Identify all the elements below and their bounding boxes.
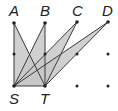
label-C: C xyxy=(72,2,83,19)
grid-dot xyxy=(44,53,47,56)
grid-dot xyxy=(107,53,110,56)
grid-dot xyxy=(76,53,79,56)
geometry-diagram: A B C D S T xyxy=(0,0,118,111)
label-T: T xyxy=(40,90,51,107)
point-C xyxy=(75,20,79,24)
point-B xyxy=(43,21,47,25)
label-D: D xyxy=(102,2,113,19)
point-A xyxy=(12,21,16,25)
point-T xyxy=(43,84,47,88)
grid-dot xyxy=(13,53,16,56)
label-S: S xyxy=(9,90,19,107)
point-D xyxy=(106,20,110,24)
label-B: B xyxy=(40,2,50,19)
grid-dot xyxy=(107,85,110,88)
label-A: A xyxy=(8,2,19,19)
point-S xyxy=(12,84,16,88)
grid-dot xyxy=(76,85,79,88)
